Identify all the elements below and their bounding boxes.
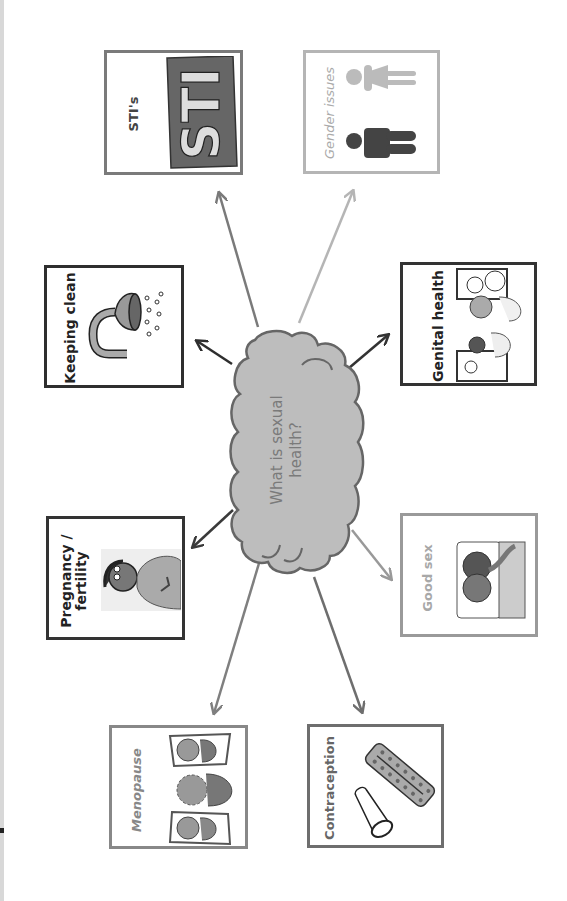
female-figure-icon — [346, 59, 436, 99]
pregnant-woman-icon — [101, 547, 181, 617]
topic-label: Good sex — [411, 522, 443, 634]
arrow-sti — [219, 193, 258, 327]
arrow-keeping-clean — [197, 341, 232, 364]
arrow-good-sex — [352, 530, 391, 579]
topic-card-gender[interactable]: Gender issues — [303, 50, 440, 174]
sti-sign-text: STI — [171, 68, 231, 160]
arrow-menopause — [214, 560, 260, 713]
arrow-contraception — [314, 577, 362, 712]
shower-head-icon — [85, 288, 175, 368]
topic-label: Genital health — [421, 269, 455, 383]
topic-label: Pregnancy / fertility — [55, 525, 93, 637]
topic-card-sti[interactable]: STI's STI — [104, 50, 243, 175]
center-question-line1: What is sexual — [268, 340, 287, 560]
topic-card-pregnancy[interactable]: Pregnancy / fertility — [46, 516, 185, 640]
topic-label: Contraception — [314, 731, 344, 845]
topic-label: STI's — [111, 56, 155, 172]
pill-pack-and-condom-icon — [348, 739, 440, 843]
topic-card-genital-health[interactable]: Genital health — [400, 262, 537, 386]
topic-card-keeping-clean[interactable]: Keeping clean — [44, 265, 184, 388]
arrow-genital-health — [349, 335, 388, 368]
topic-card-menopause[interactable]: Menopause — [109, 725, 248, 849]
arrow-pregnancy — [193, 510, 233, 547]
center-question: What is sexual health? — [268, 340, 306, 560]
center-question-line2: health? — [287, 340, 306, 560]
sti-sign-icon: STI — [163, 56, 239, 170]
male-figure-icon — [346, 125, 436, 165]
topic-label: Gender issues — [314, 55, 344, 171]
doctor-consultation-icon — [455, 267, 535, 383]
topic-card-good-sex[interactable]: Good sex — [400, 513, 538, 637]
topic-label: Menopause — [120, 734, 152, 846]
topic-label: Keeping clean — [53, 271, 87, 385]
couple-in-bed-icon — [455, 540, 529, 620]
topic-card-contraception[interactable]: Contraception — [307, 724, 444, 848]
arrow-gender — [299, 191, 353, 323]
family-portraits-icon — [166, 730, 246, 848]
